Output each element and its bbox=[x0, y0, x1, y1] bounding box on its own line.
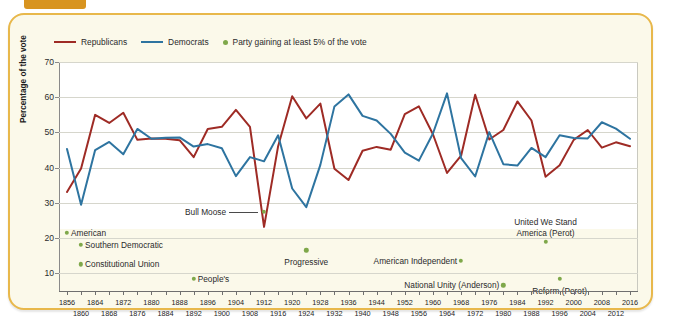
x-axis-label: 1964 bbox=[439, 309, 455, 318]
x-axis-label: 1932 bbox=[326, 309, 342, 318]
legend-line-swatch bbox=[54, 41, 76, 44]
x-axis-tick bbox=[391, 291, 392, 295]
x-axis-label: 1960 bbox=[425, 298, 441, 307]
legend-label: Democrats bbox=[168, 37, 209, 47]
x-axis-label: 1880 bbox=[143, 298, 159, 307]
x-axis-tick bbox=[95, 291, 96, 295]
x-axis-tick bbox=[208, 291, 209, 295]
x-axis-tick bbox=[433, 291, 434, 295]
x-axis-label: 2004 bbox=[580, 309, 596, 318]
x-axis-label: 1928 bbox=[312, 298, 328, 307]
x-axis-label: 1940 bbox=[354, 309, 370, 318]
third-party-label: Progressive bbox=[284, 257, 328, 267]
series-line-democrats bbox=[67, 93, 630, 207]
legend-line-swatch bbox=[141, 41, 163, 44]
x-axis-tick bbox=[574, 291, 575, 295]
x-axis-label: 1856 bbox=[59, 298, 75, 307]
x-axis-tick bbox=[475, 291, 476, 295]
x-axis-tick bbox=[81, 291, 82, 295]
x-axis-tick bbox=[67, 291, 68, 295]
x-axis-label: 1924 bbox=[298, 309, 314, 318]
x-axis-tick bbox=[546, 291, 547, 295]
x-axis-tick bbox=[250, 291, 251, 295]
third-party-label: Bull Moose bbox=[185, 207, 226, 217]
x-axis-tick bbox=[461, 291, 462, 295]
x-axis-label: 1896 bbox=[200, 298, 216, 307]
x-axis-tick bbox=[377, 291, 378, 295]
x-axis-tick bbox=[447, 291, 448, 295]
x-axis-label: 1900 bbox=[214, 309, 230, 318]
legend-dot-swatch bbox=[223, 40, 228, 45]
x-axis-tick bbox=[166, 291, 167, 295]
x-axis-tick bbox=[278, 291, 279, 295]
third-party-label: Constitutional Union bbox=[85, 259, 159, 269]
legend-third-party: Party gaining at least 5% of the vote bbox=[223, 37, 367, 47]
x-axis-label: 1944 bbox=[369, 298, 385, 307]
x-axis-label: 1988 bbox=[523, 309, 539, 318]
x-axis-tick bbox=[151, 291, 152, 295]
third-party-label: United We StandAmerica (Perot) bbox=[514, 217, 577, 239]
y-axis-tick-label: 70 bbox=[44, 57, 54, 67]
third-party-label: People's bbox=[198, 274, 230, 284]
x-axis-label: 1956 bbox=[411, 309, 427, 318]
x-axis-label: 1972 bbox=[467, 309, 483, 318]
x-axis-tick bbox=[109, 291, 110, 295]
x-axis-tick bbox=[180, 291, 181, 295]
x-axis-label: 1920 bbox=[284, 298, 300, 307]
x-axis-tick bbox=[588, 291, 589, 295]
x-axis-tick bbox=[503, 291, 504, 295]
x-axis-label: 1916 bbox=[270, 309, 286, 318]
x-axis-label: 1952 bbox=[397, 298, 413, 307]
y-axis-tick-label: 20 bbox=[44, 233, 54, 243]
x-axis-tick bbox=[292, 291, 293, 295]
x-axis-tick bbox=[419, 291, 420, 295]
x-axis-label: 1980 bbox=[495, 309, 511, 318]
tab-stub-decoration bbox=[24, 0, 86, 9]
x-axis-label: 1936 bbox=[340, 298, 356, 307]
x-axis-label: 1860 bbox=[73, 309, 89, 318]
y-axis-tick-label: 50 bbox=[44, 127, 54, 137]
x-axis-tick bbox=[630, 291, 631, 295]
plot-area: 10203040506070 AmericanSouthern Democrat… bbox=[59, 62, 638, 291]
series-layer bbox=[59, 62, 638, 291]
legend-democrats: Democrats bbox=[141, 37, 209, 47]
third-party-label: Southern Democratic bbox=[85, 240, 163, 250]
x-axis-label: 2008 bbox=[594, 298, 610, 307]
chart-card: RepublicansDemocratsParty gaining at lea… bbox=[8, 13, 653, 310]
x-axis-label: 1992 bbox=[537, 298, 553, 307]
legend-label: Party gaining at least 5% of the vote bbox=[233, 37, 367, 47]
y-axis-tick-label: 10 bbox=[44, 268, 54, 278]
x-axis-label: 2012 bbox=[608, 309, 624, 318]
x-axis-tick bbox=[363, 291, 364, 295]
y-axis-tick-label: 40 bbox=[44, 163, 54, 173]
third-party-label: National Unity (Anderson) bbox=[404, 280, 499, 290]
x-axis-label: 1872 bbox=[115, 298, 131, 307]
x-axis-label: 1884 bbox=[157, 309, 173, 318]
series-line-republicans bbox=[67, 95, 630, 227]
x-axis-label: 1864 bbox=[87, 298, 103, 307]
chart-figure: RepublicansDemocratsParty gaining at lea… bbox=[0, 0, 673, 329]
leader-line bbox=[229, 212, 258, 213]
x-axis-label: 1876 bbox=[129, 309, 145, 318]
x-axis-tick bbox=[489, 291, 490, 295]
x-axis-label: 1904 bbox=[228, 298, 244, 307]
legend-republicans: Republicans bbox=[54, 37, 127, 47]
y-axis-title: Percentage of the vote bbox=[19, 35, 28, 123]
x-axis-tick bbox=[222, 291, 223, 295]
x-axis-tick bbox=[334, 291, 335, 295]
legend-label: Republicans bbox=[81, 37, 127, 47]
chart-legend: RepublicansDemocratsParty gaining at lea… bbox=[54, 35, 381, 49]
x-axis-label: 1868 bbox=[101, 309, 117, 318]
x-axis-tick bbox=[236, 291, 237, 295]
x-axis-label: 1912 bbox=[256, 298, 272, 307]
third-party-label: American bbox=[71, 228, 106, 238]
x-axis-tick bbox=[306, 291, 307, 295]
x-axis-tick bbox=[349, 291, 350, 295]
y-axis-tick-label: 60 bbox=[44, 92, 54, 102]
x-axis-tick bbox=[194, 291, 195, 295]
x-axis-tick bbox=[602, 291, 603, 295]
x-axis-tick bbox=[320, 291, 321, 295]
x-axis-tick bbox=[560, 291, 561, 295]
x-axis-tick bbox=[616, 291, 617, 295]
x-axis-label: 2000 bbox=[566, 298, 582, 307]
